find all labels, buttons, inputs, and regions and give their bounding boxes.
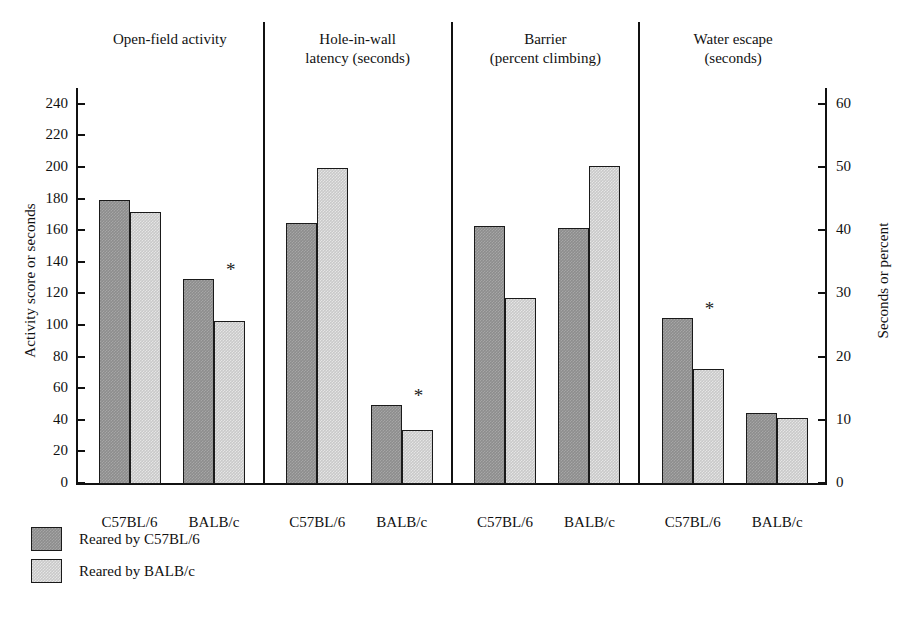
y-tick-label-left-160: 160	[22, 222, 68, 237]
y-tick-label-left-20: 20	[22, 443, 68, 458]
bar-p0-g1-s1	[214, 321, 245, 484]
bar-p1-g0-s0	[286, 223, 317, 484]
y-tick-label-right-20: 20	[836, 349, 882, 364]
legend-label-0: Reared by C57BL/6	[79, 531, 200, 548]
y-tick-label-left-200: 200	[22, 159, 68, 174]
bar-p2-g1-s0	[558, 228, 589, 484]
y-tick-label-left-60: 60	[22, 380, 68, 395]
bar-p2-g0-s0	[474, 226, 505, 484]
bar-p0-g0-s1	[130, 212, 161, 484]
significance-star-p3-g0: *	[705, 299, 715, 318]
significance-star-p1-g1: *	[414, 386, 424, 405]
y-tick-label-left-80: 80	[22, 349, 68, 364]
y-tick-label-right-10: 10	[836, 412, 882, 427]
y-tick-label-right-50: 50	[836, 159, 882, 174]
y-tick-label-right-0: 0	[836, 475, 882, 490]
plot-area: 020406080100120140160180200220240 010203…	[76, 22, 827, 484]
y-axis-title-left: Activity score or seconds	[22, 141, 39, 421]
bar-p3-g0-s1	[693, 369, 724, 484]
bar-p1-g0-s1	[317, 168, 348, 484]
legend-item-1: Reared by BALB/c	[31, 558, 200, 584]
group-label-p2-g1: BALB/c	[529, 514, 649, 531]
bar-p2-g0-s1	[505, 298, 536, 484]
significance-star-p0-g1: *	[226, 260, 236, 279]
bar-chart-figure: Activity score or seconds Seconds or per…	[0, 0, 903, 631]
y-tick-label-left-0: 0	[22, 475, 68, 490]
legend: Reared by C57BL/6Reared by BALB/c	[31, 526, 200, 590]
group-label-p3-g1: BALB/c	[717, 514, 837, 531]
y-tick-label-left-240: 240	[22, 96, 68, 111]
bar-p1-g1-s0	[371, 405, 402, 484]
y-tick-label-left-120: 120	[22, 285, 68, 300]
y-axis-title-right: Seconds or percent	[875, 141, 892, 421]
legend-swatch-1	[31, 559, 62, 583]
legend-label-1: Reared by BALB/c	[79, 563, 195, 580]
bar-p3-g1-s0	[746, 413, 777, 484]
legend-item-0: Reared by C57BL/6	[31, 526, 200, 552]
y-tick-label-left-180: 180	[22, 191, 68, 206]
y-tick-label-left-40: 40	[22, 412, 68, 427]
y-tick-label-right-40: 40	[836, 222, 882, 237]
y-tick-label-left-220: 220	[22, 127, 68, 142]
bar-p3-g0-s0	[662, 318, 693, 484]
bar-p0-g0-s0	[99, 200, 130, 484]
bar-p1-g1-s1	[402, 430, 433, 484]
y-tick-label-right-60: 60	[836, 96, 882, 111]
y-tick-label-right-30: 30	[836, 285, 882, 300]
y-tick-label-left-140: 140	[22, 254, 68, 269]
bar-p0-g1-s0	[183, 279, 214, 484]
bar-p2-g1-s1	[589, 166, 620, 484]
bars-layer: ***	[76, 22, 827, 485]
y-tick-label-left-100: 100	[22, 317, 68, 332]
bar-p3-g1-s1	[777, 418, 808, 484]
group-label-p1-g1: BALB/c	[342, 514, 462, 531]
legend-swatch-0	[31, 527, 62, 551]
